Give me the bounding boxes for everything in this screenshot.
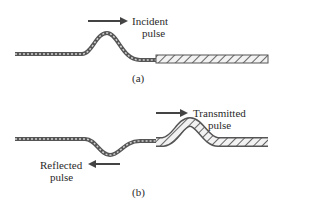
transmitted-label-line1: Transmitted bbox=[193, 107, 246, 119]
panel-b-caption: (b) bbox=[132, 186, 145, 198]
transmitted-pulse-label: Transmitted pulse bbox=[193, 107, 246, 131]
reflected-label-line2: pulse bbox=[40, 171, 82, 183]
reflected-label-line1: Reflected bbox=[40, 159, 82, 171]
incident-label-line2: pulse bbox=[132, 27, 168, 39]
incident-label-line1: Incident bbox=[132, 15, 168, 27]
transmitted-label-line2: pulse bbox=[193, 119, 246, 131]
reflected-arrowhead-icon bbox=[88, 160, 96, 168]
incident-arrowhead-icon bbox=[120, 17, 128, 25]
reflected-pulse-label: Reflected pulse bbox=[40, 159, 82, 183]
heavy-rope-a bbox=[156, 55, 268, 63]
panel-a-caption: (a) bbox=[132, 72, 144, 84]
transmitted-arrowhead-icon bbox=[180, 109, 188, 117]
incident-pulse-label: Incident pulse bbox=[132, 15, 168, 39]
